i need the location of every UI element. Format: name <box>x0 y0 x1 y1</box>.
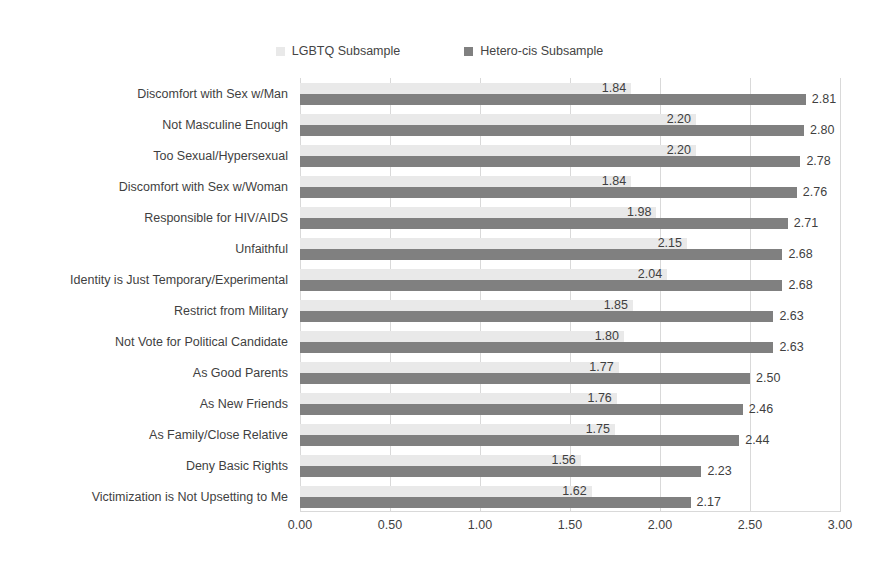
bar-group: 1.842.81 <box>300 83 840 105</box>
x-tick-label: 3.00 <box>828 518 852 532</box>
category-label: Victimization is Not Upsetting to Me <box>92 491 288 504</box>
bar-value-label: 2.81 <box>806 94 836 105</box>
bar-lgbtq[interactable] <box>300 455 581 466</box>
legend-swatch-icon <box>276 47 285 56</box>
bar-value-label: 1.56 <box>551 455 580 466</box>
category-label: Discomfort with Sex w/Man <box>137 88 288 101</box>
bar-group: 2.042.68 <box>300 269 840 291</box>
bar-hetero-cis[interactable] <box>300 156 800 167</box>
category-label: Not Vote for Political Candidate <box>115 336 288 349</box>
gridline <box>660 78 661 512</box>
bar-value-label: 2.80 <box>804 125 834 136</box>
bar-value-label: 2.76 <box>797 187 827 198</box>
category-label: Discomfort with Sex w/Woman <box>119 181 288 194</box>
plot-area: 1.842.812.202.802.202.781.842.761.982.71… <box>300 78 840 512</box>
bar-value-label: 2.44 <box>739 435 769 446</box>
bar-lgbtq[interactable] <box>300 331 624 342</box>
bar-group: 2.152.68 <box>300 238 840 260</box>
bar-value-label: 1.98 <box>627 207 656 218</box>
legend-entry[interactable]: Hetero-cis Subsample <box>464 44 603 58</box>
bar-value-label: 2.15 <box>658 238 687 249</box>
bar-hetero-cis[interactable] <box>300 497 691 508</box>
legend-swatch-icon <box>464 47 473 56</box>
bar-value-label: 2.71 <box>788 218 818 229</box>
bar-lgbtq[interactable] <box>300 114 696 125</box>
bar-value-label: 2.68 <box>782 280 812 291</box>
bar-hetero-cis[interactable] <box>300 404 743 415</box>
bar-lgbtq[interactable] <box>300 424 615 435</box>
bar-value-label: 2.20 <box>667 114 696 125</box>
bar-group: 1.802.63 <box>300 331 840 353</box>
bar-group: 1.562.23 <box>300 455 840 477</box>
category-label: Too Sexual/Hypersexual <box>153 150 288 163</box>
gridline <box>300 78 301 512</box>
bar-hetero-cis[interactable] <box>300 187 797 198</box>
category-label: Identity is Just Temporary/Experimental <box>70 274 288 287</box>
bar-value-label: 1.85 <box>604 300 633 311</box>
bar-value-label: 1.77 <box>589 362 618 373</box>
bar-group: 1.772.50 <box>300 362 840 384</box>
x-tick-label: 0.00 <box>288 518 312 532</box>
bar-lgbtq[interactable] <box>300 145 696 156</box>
bar-hetero-cis[interactable] <box>300 373 750 384</box>
x-tick-label: 2.00 <box>648 518 672 532</box>
bar-hetero-cis[interactable] <box>300 249 782 260</box>
category-label: Not Masculine Enough <box>162 119 288 132</box>
bar-value-label: 1.80 <box>595 331 624 342</box>
bar-value-label: 2.04 <box>638 269 667 280</box>
bar-lgbtq[interactable] <box>300 269 667 280</box>
bar-lgbtq[interactable] <box>300 362 619 373</box>
bar-lgbtq[interactable] <box>300 83 631 94</box>
category-label: As Family/Close Relative <box>149 429 288 442</box>
legend-label: LGBTQ Subsample <box>292 44 400 58</box>
bar-lgbtq[interactable] <box>300 207 656 218</box>
plot-wrapper: Discomfort with Sex w/ManNot Masculine E… <box>0 78 879 518</box>
legend-label: Hetero-cis Subsample <box>480 44 603 58</box>
x-tick-label: 1.00 <box>468 518 492 532</box>
bar-lgbtq[interactable] <box>300 486 592 497</box>
legend-entry[interactable]: LGBTQ Subsample <box>276 44 400 58</box>
bar-value-label: 2.68 <box>782 249 812 260</box>
gridline <box>840 78 841 512</box>
bar-group: 1.622.17 <box>300 486 840 508</box>
bar-group: 1.852.63 <box>300 300 840 322</box>
bar-value-label: 2.78 <box>800 156 830 167</box>
bar-group: 1.752.44 <box>300 424 840 446</box>
bar-group: 2.202.80 <box>300 114 840 136</box>
category-axis-labels: Discomfort with Sex w/ManNot Masculine E… <box>0 78 296 512</box>
bar-hetero-cis[interactable] <box>300 435 739 446</box>
bar-hetero-cis[interactable] <box>300 466 701 477</box>
gridline <box>750 78 751 512</box>
bar-chart: LGBTQ SubsampleHetero-cis Subsample Disc… <box>0 0 879 564</box>
bar-hetero-cis[interactable] <box>300 218 788 229</box>
bar-hetero-cis[interactable] <box>300 342 773 353</box>
bar-value-label: 2.50 <box>750 373 780 384</box>
bar-hetero-cis[interactable] <box>300 280 782 291</box>
bar-hetero-cis[interactable] <box>300 311 773 322</box>
category-label: As New Friends <box>200 398 288 411</box>
bar-lgbtq[interactable] <box>300 176 631 187</box>
bar-lgbtq[interactable] <box>300 238 687 249</box>
gridline <box>570 78 571 512</box>
bar-value-label: 2.17 <box>691 497 721 508</box>
bar-hetero-cis[interactable] <box>300 125 804 136</box>
category-label: As Good Parents <box>193 367 288 380</box>
bar-value-label: 1.84 <box>602 176 631 187</box>
gridline <box>390 78 391 512</box>
bar-value-label: 2.20 <box>667 145 696 156</box>
x-axis-tick-labels: 0.000.501.001.502.002.503.00 <box>300 518 840 542</box>
bar-value-label: 2.63 <box>773 311 803 322</box>
bar-lgbtq[interactable] <box>300 300 633 311</box>
bar-group: 1.762.46 <box>300 393 840 415</box>
x-tick-label: 2.50 <box>738 518 762 532</box>
bar-hetero-cis[interactable] <box>300 94 806 105</box>
bar-group: 1.842.76 <box>300 176 840 198</box>
bar-group: 1.982.71 <box>300 207 840 229</box>
category-label: Unfaithful <box>235 243 288 256</box>
gridline <box>480 78 481 512</box>
bar-value-label: 2.46 <box>743 404 773 415</box>
bar-lgbtq[interactable] <box>300 393 617 404</box>
bar-value-label: 2.23 <box>701 466 731 477</box>
bar-value-label: 1.76 <box>587 393 616 404</box>
bar-group: 2.202.78 <box>300 145 840 167</box>
